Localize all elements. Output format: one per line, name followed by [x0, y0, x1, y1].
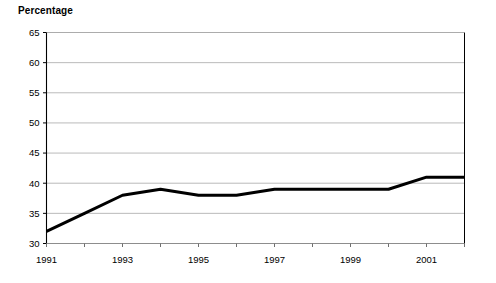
x-axis-tick-labels: 199119931995199719992001 — [36, 254, 437, 265]
y-tick-label-65: 65 — [29, 27, 40, 38]
y-tick-label-40: 40 — [29, 178, 40, 189]
plot-frame — [43, 33, 465, 244]
y-tick-label-30: 30 — [29, 238, 40, 249]
x-tick-label-1991: 1991 — [36, 254, 57, 265]
x-tick-label-1999: 1999 — [340, 254, 361, 265]
y-tick-label-50: 50 — [29, 117, 40, 128]
line-chart-plot: 3035404550556065 19911993199519971999200… — [0, 0, 496, 283]
x-tick-label-1993: 1993 — [112, 254, 133, 265]
x-axis-ticks — [47, 244, 465, 248]
data-series-line — [47, 177, 465, 231]
x-tick-label-2001: 2001 — [416, 254, 437, 265]
y-tick-label-55: 55 — [29, 87, 40, 98]
y-axis-tick-labels: 3035404550556065 — [29, 27, 40, 249]
x-tick-label-1997: 1997 — [264, 254, 285, 265]
y-tick-label-60: 60 — [29, 57, 40, 68]
y-tick-label-35: 35 — [29, 208, 40, 219]
y-tick-label-45: 45 — [29, 147, 40, 158]
chart-container: Percentage 3035404550556065 199119931995… — [0, 0, 496, 283]
series-percentage-line — [47, 177, 465, 231]
x-tick-label-1995: 1995 — [188, 254, 209, 265]
